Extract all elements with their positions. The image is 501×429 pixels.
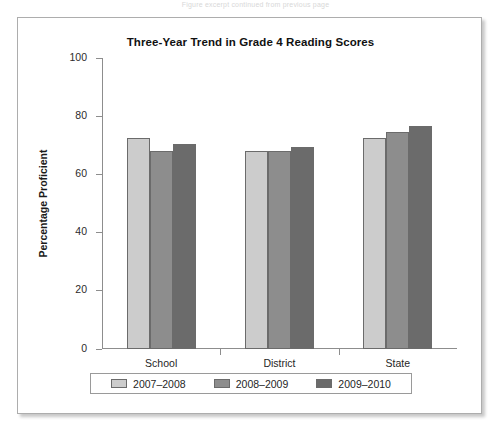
legend-entry: 2007–2008	[111, 378, 186, 390]
y-axis-tick: 20	[96, 290, 102, 291]
page-root: Figure excerpt continued from previous p…	[0, 0, 501, 429]
y-axis-title: Percentage Proficient	[36, 0, 50, 58]
x-axis-category-label: District	[220, 357, 338, 369]
bar	[291, 147, 314, 349]
legend-label: 2008–2009	[236, 378, 289, 390]
bar	[386, 132, 409, 349]
legend-entry: 2008–2009	[214, 378, 289, 390]
legend-swatch	[111, 379, 127, 388]
bar	[150, 151, 173, 349]
y-axis-tick-label: 60	[75, 167, 87, 179]
x-axis-tick	[339, 349, 340, 355]
legend-swatch	[316, 379, 332, 388]
y-axis-tick: 100	[96, 58, 102, 59]
x-axis-category-label: State	[339, 357, 457, 369]
bar	[268, 151, 291, 349]
y-axis-tick: 80	[96, 116, 102, 117]
y-axis-tick-label: 0	[81, 342, 87, 354]
y-axis-tick-label: 20	[75, 283, 87, 295]
figure-frame: Three-Year Trend in Grade 4 Reading Scor…	[17, 17, 482, 414]
x-axis-category-label: School	[102, 357, 220, 369]
y-axis-tick-label: 40	[75, 225, 87, 237]
bar	[127, 138, 150, 349]
chart-title: Three-Year Trend in Grade 4 Reading Scor…	[18, 36, 483, 48]
legend-entry: 2009–2010	[316, 378, 391, 390]
bar	[409, 126, 432, 349]
legend-swatch	[214, 379, 230, 388]
y-axis-tick-label: 80	[75, 109, 87, 121]
legend-label: 2009–2010	[338, 378, 391, 390]
legend-label: 2007–2008	[133, 378, 186, 390]
cropped-header-text: Figure excerpt continued from previous p…	[28, 0, 483, 9]
y-axis-tick: 40	[96, 232, 102, 233]
y-axis-tick: 60	[96, 174, 102, 175]
y-axis-title-label: Percentage Proficient	[36, 58, 50, 349]
bar	[245, 151, 268, 349]
bar	[173, 144, 196, 349]
y-axis-line	[102, 58, 103, 349]
bar	[363, 138, 386, 349]
x-axis-tick	[220, 349, 221, 355]
y-axis-tick-label: 100	[69, 51, 87, 63]
y-axis-tick: 0	[96, 349, 102, 350]
plot-area: 020406080100SchoolDistrictState	[102, 58, 457, 349]
chart-legend: 2007–20082008–20092009–2010	[90, 373, 412, 394]
